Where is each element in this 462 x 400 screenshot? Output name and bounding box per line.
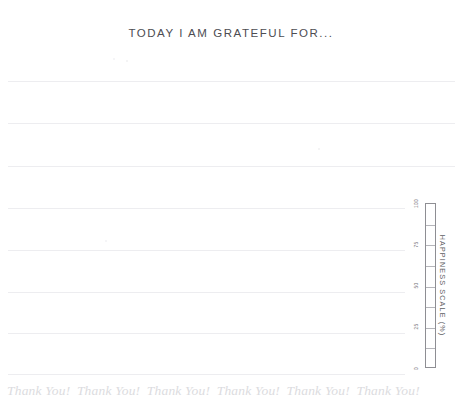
thank-you-text: Thank You! [356,383,419,398]
paper-speckle [126,60,128,62]
happiness-scale-tick: 75 [410,240,423,248]
writing-line[interactable] [8,250,405,251]
happiness-scale-division [426,225,435,226]
happiness-scale-track[interactable] [425,203,436,368]
happiness-scale-division [426,307,435,308]
writing-line[interactable] [8,333,405,334]
paper-speckle [318,148,320,150]
thank-you-text: Thank You! [287,383,350,398]
thank-you-text: Thank You! [7,383,70,398]
thank-you-text: Thank You! [77,383,140,398]
happiness-scale-division [426,245,435,246]
happiness-scale-tick-label: 50 [414,283,419,289]
writing-line[interactable] [8,81,455,82]
happiness-scale-axis-label-text: HAPPINESS SCALE (%) [439,235,448,337]
happiness-scale-tick: 25 [410,323,423,331]
happiness-scale-tick: 100 [410,199,423,207]
happiness-scale-tick-label: 75 [414,241,419,247]
footer-thank-you: Thank You!Thank You!Thank You!Thank You!… [7,383,462,399]
writing-line[interactable] [8,374,405,375]
happiness-scale-division [426,287,435,288]
writing-line[interactable] [8,292,405,293]
writing-line[interactable] [8,166,455,167]
happiness-scale[interactable]: 1007550250 HAPPINESS SCALE (%) [410,203,462,371]
happiness-scale-division [426,348,435,349]
writing-line[interactable] [8,208,405,209]
happiness-scale-axis-label: HAPPINESS SCALE (%) [437,203,449,368]
paper-speckle [113,58,115,60]
happiness-scale-division [426,328,435,329]
happiness-scale-tick-label: 100 [414,199,419,208]
happiness-scale-division [426,266,435,267]
happiness-scale-tick-label: 25 [414,324,419,330]
page-title: TODAY I AM GRATEFUL FOR... [0,27,462,39]
thank-you-text: Thank You! [217,383,280,398]
happiness-scale-tick: 50 [410,282,423,290]
writing-line[interactable] [8,123,455,124]
happiness-scale-tick: 0 [410,364,423,372]
journal-page: TODAY I AM GRATEFUL FOR... 1007550250 HA… [0,0,462,400]
thank-you-text: Thank You! [147,383,210,398]
paper-speckle [105,240,107,242]
happiness-scale-tick-label: 0 [414,367,419,370]
